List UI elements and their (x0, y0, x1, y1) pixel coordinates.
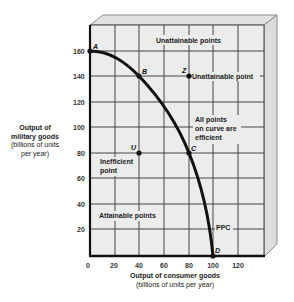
annotation-efficient-3: efficient (195, 134, 223, 141)
y-axis-title-line1: Output of (2, 124, 68, 133)
label-b: B (142, 68, 147, 75)
y-tick-140: 140 (73, 73, 85, 80)
x-axis-title-main: Output of consumer goods (110, 272, 240, 281)
y-tick-60: 60 (77, 175, 85, 182)
box-top-face (90, 15, 277, 25)
x-axis-subtitle: (billions of units per year) (110, 281, 240, 290)
y-axis-title-line2: military goods (2, 133, 68, 142)
x-tick-60: 60 (160, 262, 168, 269)
annotation-efficient-2: on curve are (195, 125, 237, 132)
x-axis-title: Output of consumer goods (billions of un… (110, 272, 240, 289)
point-b (136, 73, 141, 78)
x-tick-20: 20 (110, 262, 118, 269)
y-axis-subtitle-line1: (billions of units (2, 141, 68, 150)
x-tick-0: 0 (86, 262, 90, 269)
label-a: A (92, 43, 98, 50)
y-axis-title: Output of military goods (billions of un… (2, 124, 68, 158)
annotation-attainable-points: Attainable points (99, 212, 156, 220)
annotation-inefficient-2: point (100, 167, 118, 175)
annotation-unattainable-points: Unattainable points (156, 37, 221, 45)
label-z: Z (181, 67, 187, 74)
x-tick-100: 100 (207, 262, 219, 269)
point-z (186, 73, 191, 78)
point-u (136, 150, 141, 155)
annotation-unattainable-point: Unattainable point (192, 73, 254, 81)
box-side-face (264, 15, 277, 257)
y-tick-100: 100 (73, 124, 85, 131)
point-d (210, 253, 215, 258)
x-tick-40: 40 (135, 262, 143, 269)
point-a (87, 48, 92, 53)
y-tick-20: 20 (77, 226, 85, 233)
y-tick-80: 80 (77, 150, 85, 157)
y-tick-120: 120 (73, 99, 85, 106)
annotation-inefficient-1: Inefficient (100, 158, 134, 165)
annotation-efficient-1: All points (195, 116, 227, 124)
y-tick-160: 160 (73, 48, 85, 55)
annotation-ppc: PPC (216, 224, 230, 231)
label-d: D (215, 247, 220, 254)
y-axis-subtitle-line2: per year) (2, 150, 68, 159)
y-tick-40: 40 (77, 201, 85, 208)
x-tick-120: 120 (232, 262, 244, 269)
x-tick-80: 80 (185, 262, 193, 269)
